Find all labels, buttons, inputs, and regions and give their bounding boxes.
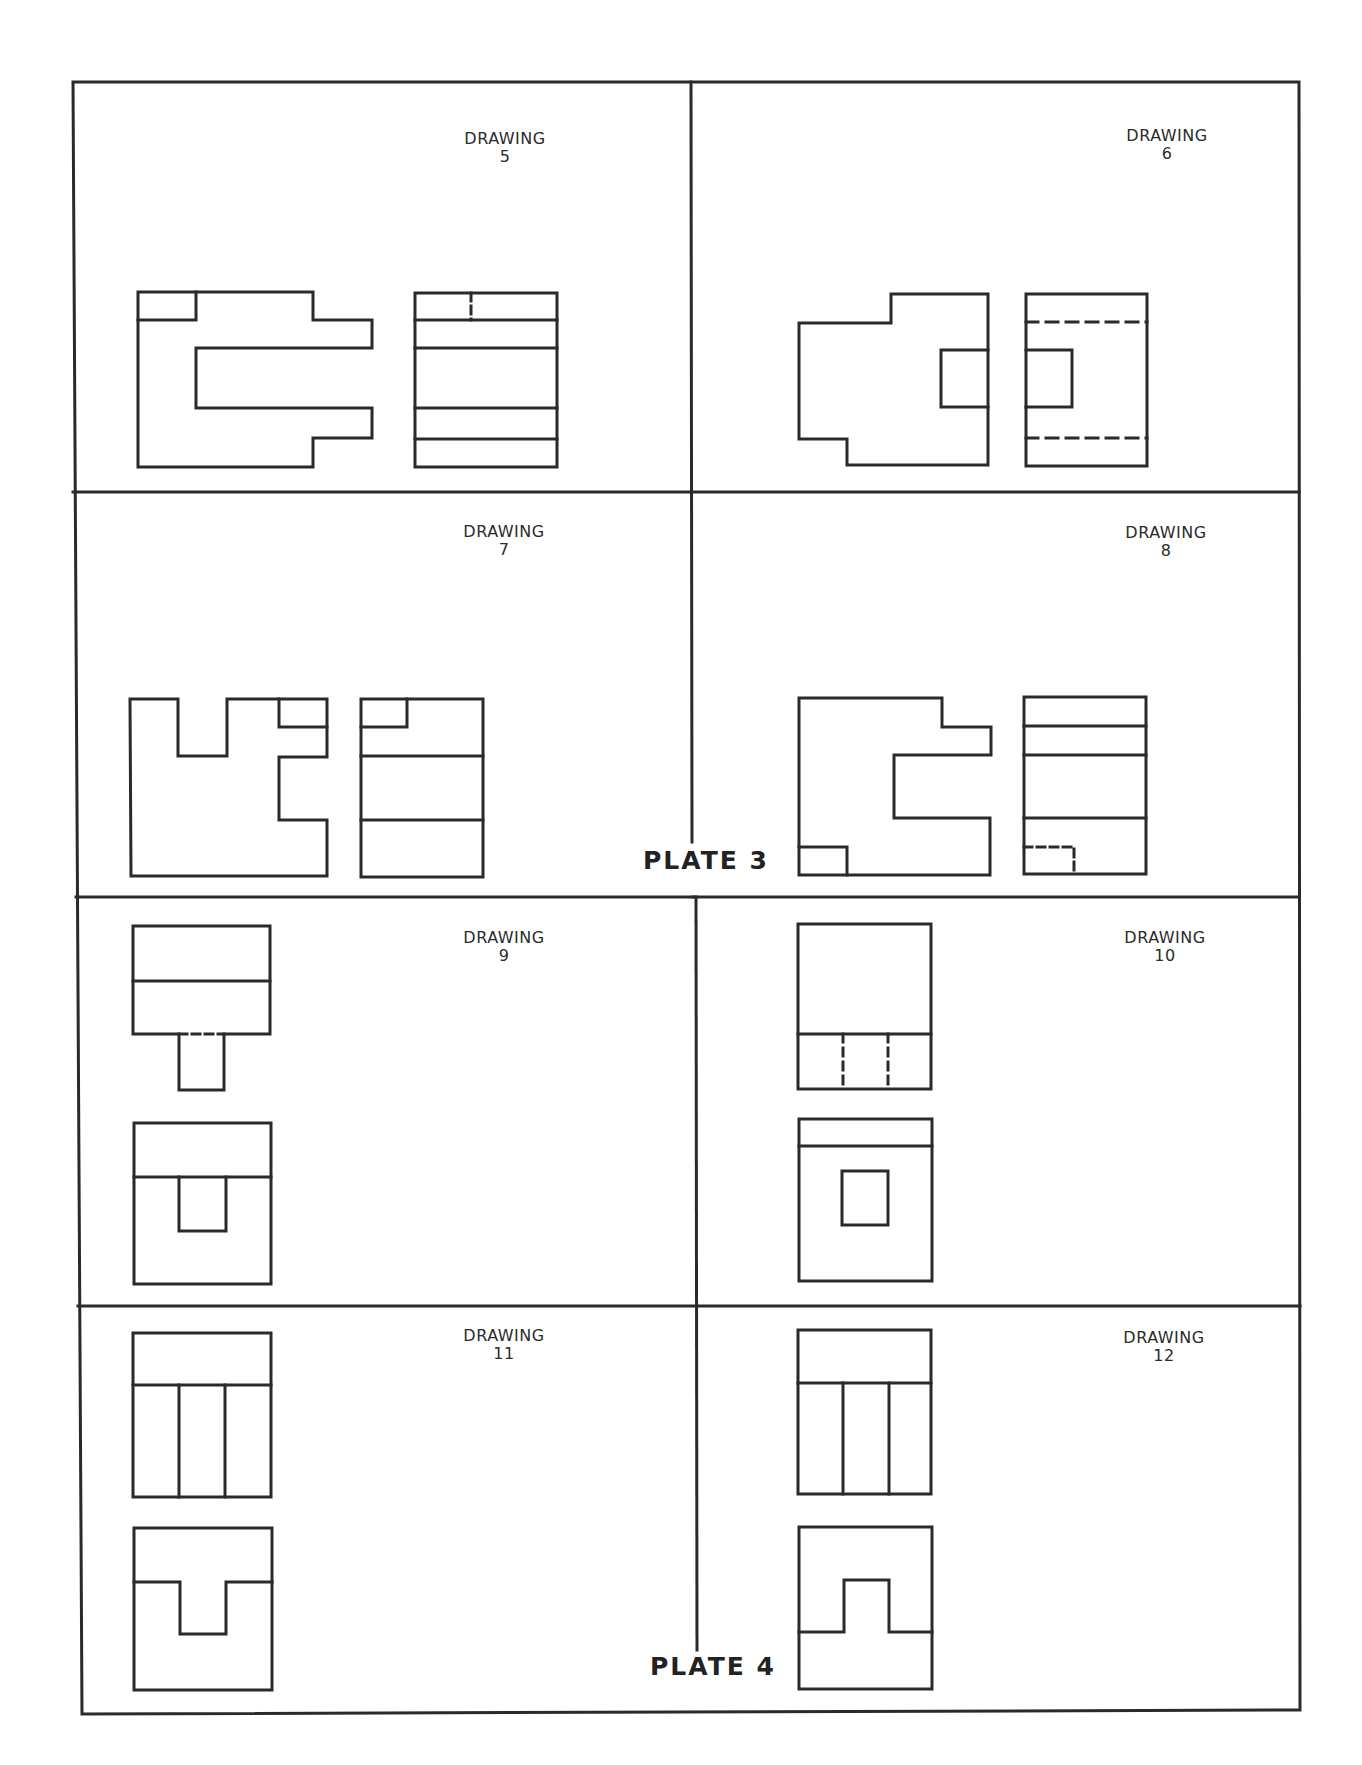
drawing-12-title: DRAWING	[1104, 1329, 1224, 1347]
drawing-10-front-view	[799, 1119, 932, 1281]
drawing-9-title: DRAWING	[444, 929, 564, 947]
drawing-8-title: DRAWING	[1106, 524, 1226, 542]
drawing-6-side-view	[1026, 294, 1147, 466]
drawing-6-title: DRAWING	[1107, 127, 1227, 145]
drawing-10-label: DRAWING 10	[1105, 929, 1225, 965]
drawing-8-number: 8	[1106, 542, 1226, 560]
drawing-8-label: DRAWING 8	[1106, 524, 1226, 560]
drawing-8-front-view	[799, 698, 991, 875]
drawing-10-title: DRAWING	[1105, 929, 1225, 947]
drawing-7-title: DRAWING	[444, 523, 564, 541]
drawing-11-number: 11	[444, 1345, 564, 1363]
drawing-9-number: 9	[444, 947, 564, 965]
drawing-9-top-view	[133, 926, 270, 1090]
drawing-9-label: DRAWING 9	[444, 929, 564, 965]
plates-sheet	[0, 0, 1362, 1765]
drawing-10-number: 10	[1105, 947, 1225, 965]
drawing-5-front-view	[138, 292, 372, 467]
drawing-5-title: DRAWING	[445, 130, 565, 148]
drawing-9-front-view	[134, 1123, 271, 1284]
drawing-5-side-view	[415, 293, 557, 467]
drawing-11-top-view	[133, 1333, 271, 1497]
drawing-12-front-view	[799, 1527, 932, 1689]
drawing-7-side-view	[361, 699, 483, 877]
drawing-12-top-view	[798, 1330, 931, 1494]
drawing-11-title: DRAWING	[444, 1327, 564, 1345]
divider-vertical-plate-4	[696, 897, 697, 1650]
drawing-7-front-view	[130, 699, 327, 876]
divider-vertical-plate-3	[691, 82, 692, 842]
drawing-7-number: 7	[444, 541, 564, 559]
drawing-7-label: DRAWING 7	[444, 523, 564, 559]
drawing-11-front-view	[134, 1528, 272, 1690]
drawing-6-front-view	[799, 294, 988, 465]
drawing-5-label: DRAWING 5	[445, 130, 565, 166]
drawing-10-top-view	[798, 924, 931, 1089]
plate-3-label: PLATE 3	[643, 846, 769, 875]
drawing-12-number: 12	[1104, 1347, 1224, 1365]
drawing-5-number: 5	[445, 148, 565, 166]
drawing-12-label: DRAWING 12	[1104, 1329, 1224, 1365]
drawing-6-number: 6	[1107, 145, 1227, 163]
drawing-11-label: DRAWING 11	[444, 1327, 564, 1363]
drawing-6-label: DRAWING 6	[1107, 127, 1227, 163]
plate-4-label: PLATE 4	[650, 1652, 776, 1681]
drawing-8-side-view	[1024, 697, 1146, 874]
